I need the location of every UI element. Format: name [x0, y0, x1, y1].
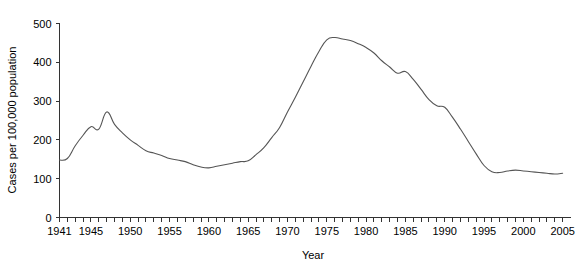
y-tick-label: 300: [33, 95, 51, 107]
x-tick-label: 1965: [236, 225, 260, 237]
y-tick-label: 200: [33, 134, 51, 146]
y-axis: 0100200300400500: [33, 18, 59, 224]
x-axis-title: Year: [302, 249, 325, 261]
x-tick-label: 1975: [315, 225, 339, 237]
y-tick-label: 0: [45, 212, 51, 224]
line-chart: 0100200300400500 19411945195019551960196…: [0, 0, 579, 264]
x-tick-label: 1995: [472, 225, 496, 237]
chart-canvas: 0100200300400500 19411945195019551960196…: [0, 0, 579, 264]
x-tick-label: 1970: [275, 225, 299, 237]
x-tick-label: 1941: [47, 225, 71, 237]
x-tick-label: 2005: [550, 225, 574, 237]
y-axis-title: Cases per 100,000 population: [6, 47, 18, 194]
x-axis-ticks: [60, 218, 563, 222]
x-tick-label: 1980: [354, 225, 378, 237]
x-axis-tick-labels: 1941194519501955196019651970197519801985…: [47, 225, 575, 237]
y-tick-label: 400: [33, 56, 51, 68]
y-axis-ticks: [56, 24, 60, 218]
x-tick-label: 1960: [197, 225, 221, 237]
data-series-line: [60, 37, 563, 174]
x-tick-label: 2000: [511, 225, 535, 237]
x-tick-label: 1990: [432, 225, 456, 237]
y-axis-tick-labels: 0100200300400500: [33, 18, 51, 224]
x-tick-label: 1950: [118, 225, 142, 237]
y-tick-label: 100: [33, 173, 51, 185]
x-tick-label: 1945: [79, 225, 103, 237]
y-tick-label: 500: [33, 18, 51, 30]
x-tick-label: 1985: [393, 225, 417, 237]
x-axis: 1941194519501955196019651970197519801985…: [47, 218, 575, 237]
x-tick-label: 1955: [157, 225, 181, 237]
